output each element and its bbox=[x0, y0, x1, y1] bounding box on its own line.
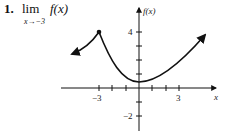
x-tick-label-3: 3 bbox=[176, 93, 181, 103]
y-tick-label-4: 4 bbox=[128, 27, 133, 37]
graph: −3 3 4 −2 x f(x) bbox=[0, 0, 237, 139]
x-axis-label: x bbox=[213, 92, 218, 102]
y-tick-label-neg2: −2 bbox=[123, 111, 133, 121]
curve-left-branch bbox=[72, 32, 99, 54]
closed-dot bbox=[97, 30, 102, 35]
x-tick-label-neg3: −3 bbox=[92, 93, 102, 103]
y-axis-label: f(x) bbox=[143, 6, 156, 16]
curve-right-branch bbox=[99, 32, 205, 82]
